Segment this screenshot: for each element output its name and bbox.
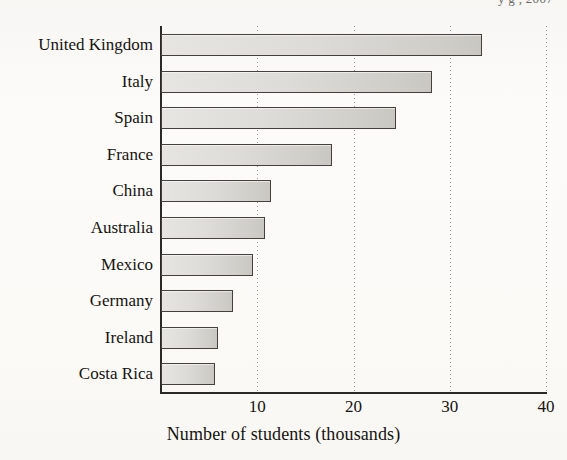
bar-italy (161, 71, 432, 93)
bar-row (161, 71, 546, 93)
bar-spain (161, 107, 396, 129)
bar-mexico (161, 254, 253, 276)
y-axis-label-australia: Australia (0, 217, 153, 239)
bar-row (161, 34, 546, 56)
bar-row (161, 327, 546, 349)
y-axis-label-mexico: Mexico (0, 254, 153, 276)
y-axis-label-germany: Germany (0, 290, 153, 312)
x-axis-tick-10: 10 (237, 397, 277, 417)
x-axis-caption: Number of students (thousands) (0, 424, 567, 445)
bar-row (161, 363, 546, 385)
y-axis-label-china: China (0, 180, 153, 202)
bar-row (161, 180, 546, 202)
y-axis-label-france: France (0, 144, 153, 166)
figure-page: y g , 2007 United KingdomItalySpainFranc… (0, 0, 567, 460)
x-axis-tick-20: 20 (334, 397, 374, 417)
bar-germany (161, 290, 233, 312)
bar-ireland (161, 327, 218, 349)
bar-united-kingdom (161, 34, 482, 56)
bar-australia (161, 217, 265, 239)
cropped-title: y g , 2007 (0, 0, 567, 11)
cropped-title-text: y g , 2007 (498, 0, 553, 7)
gridline-40 (546, 26, 547, 392)
bar-france (161, 144, 332, 166)
y-axis-label-costa-rica: Costa Rica (0, 363, 153, 385)
x-axis-tick-40: 40 (526, 397, 566, 417)
bar-row (161, 254, 546, 276)
bar-row (161, 217, 546, 239)
bar-china (161, 180, 271, 202)
bar-chart-plot-area (161, 26, 546, 392)
bar-row (161, 107, 546, 129)
x-axis-tick-30: 30 (430, 397, 470, 417)
x-axis-line (160, 392, 547, 394)
y-axis-label-spain: Spain (0, 107, 153, 129)
bar-costa-rica (161, 363, 215, 385)
y-axis-label-italy: Italy (0, 71, 153, 93)
y-axis-label-united-kingdom: United Kingdom (0, 34, 153, 56)
bar-row (161, 144, 546, 166)
y-axis-label-ireland: Ireland (0, 327, 153, 349)
bar-row (161, 290, 546, 312)
